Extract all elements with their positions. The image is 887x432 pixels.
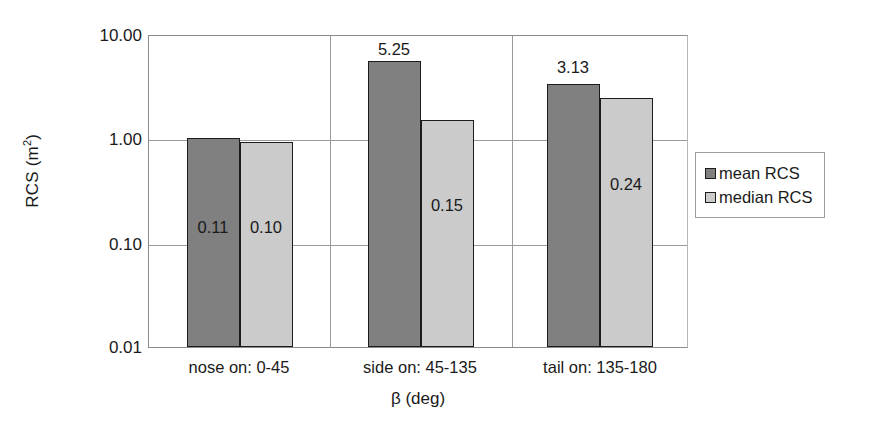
legend-item-median-rcs: median RCS — [705, 185, 813, 209]
median-swatch-icon — [705, 192, 716, 203]
legend-label-median-rcs: median RCS — [719, 188, 813, 207]
category-label-nose-on: nose on: 0-45 — [189, 358, 290, 377]
category-label-side-on: side on: 45-135 — [363, 358, 477, 377]
mean-swatch-icon — [705, 168, 716, 179]
bar-label-median-tail-on: 0.24 — [610, 176, 642, 193]
bar-mean-tail-on — [547, 84, 600, 347]
bar-label-mean-nose-on: 0.11 — [198, 219, 229, 236]
bar-label-mean-tail-on: 3.13 — [557, 59, 589, 76]
y-tick-0-10: 0.10 — [56, 236, 142, 253]
y-axis-tick-labels: 10.00 1.00 0.10 0.01 — [52, 35, 142, 348]
bar-label-median-nose-on: 0.10 — [250, 219, 282, 236]
category-separator-1 — [330, 36, 331, 347]
x-axis-title: β (deg) — [148, 389, 688, 409]
bar-mean-side-on — [368, 61, 421, 347]
bar-median-side-on — [421, 120, 474, 347]
rcs-bar-chart: RCS (m2) 10.00 1.00 0.10 0.01 0.11 0.10 … — [0, 0, 887, 432]
y-axis-title-text: RCS (m — [23, 146, 42, 208]
plot-area — [148, 35, 688, 348]
legend-item-mean-rcs: mean RCS — [705, 161, 813, 185]
category-separator-2 — [512, 36, 513, 347]
bar-label-mean-side-on: 5.25 — [378, 41, 410, 58]
category-label-tail-on: tail on: 135-180 — [543, 358, 657, 377]
y-axis-title-superscript: 2 — [21, 140, 33, 146]
bar-median-nose-on — [240, 142, 293, 347]
y-tick-10: 10.00 — [56, 27, 142, 44]
bar-label-median-side-on: 0.15 — [431, 197, 463, 214]
bar-mean-nose-on — [187, 138, 240, 347]
chart-legend: mean RCS median RCS — [695, 152, 825, 218]
y-axis-title-paren: ) — [23, 134, 42, 140]
y-tick-1: 1.00 — [56, 131, 142, 148]
legend-label-mean-rcs: mean RCS — [719, 164, 800, 183]
bar-median-tail-on — [600, 98, 653, 347]
y-tick-0-01: 0.01 — [56, 339, 142, 356]
y-axis-title: RCS (m2) — [21, 101, 43, 241]
